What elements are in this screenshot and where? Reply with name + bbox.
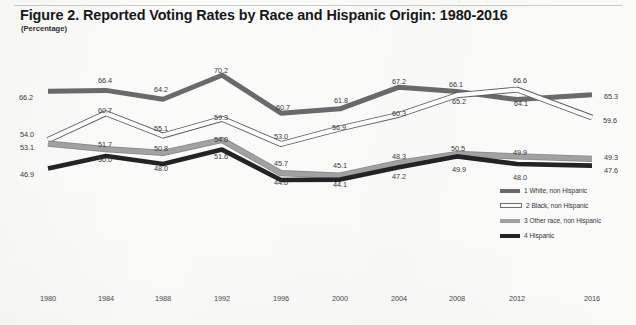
data-point-label: 53.1 bbox=[20, 143, 34, 152]
data-point-label: 66.4 bbox=[98, 76, 112, 85]
x-axis-tick-1992: 1992 bbox=[214, 294, 230, 303]
other-race-line-swatch bbox=[500, 219, 520, 223]
data-point-label: 60.7 bbox=[98, 106, 112, 115]
x-axis-tick-1988: 1988 bbox=[155, 294, 171, 303]
data-point-label: 49.3 bbox=[604, 153, 618, 162]
data-point-label: 48.0 bbox=[513, 173, 527, 182]
data-point-label: 45.1 bbox=[333, 161, 347, 170]
data-point-label: 64.1 bbox=[514, 99, 528, 108]
data-point-label: 48.0 bbox=[154, 164, 168, 173]
x-axis-tick-2012: 2012 bbox=[509, 294, 525, 303]
data-point-label: 54.0 bbox=[214, 135, 228, 144]
data-point-label: 66.1 bbox=[449, 80, 463, 89]
legend-item-3[interactable]: 3 Other race, non Hispanic bbox=[500, 213, 630, 228]
data-point-label: 44.1 bbox=[333, 180, 347, 189]
data-point-label: 49.9 bbox=[452, 165, 466, 174]
x-axis-tick-2004: 2004 bbox=[391, 294, 407, 303]
legend-item-label: 1 White, non Hispanic bbox=[524, 187, 587, 194]
data-point-label: 59.6 bbox=[603, 116, 617, 125]
data-point-label: 49.9 bbox=[513, 148, 527, 157]
data-point-label: 65.2 bbox=[452, 97, 466, 106]
legend-item-label: 2 Black, non Hispanic bbox=[526, 202, 588, 209]
data-point-label: 54.0 bbox=[20, 130, 34, 139]
data-point-label: 48.3 bbox=[392, 152, 406, 161]
data-point-label: 44.0 bbox=[274, 178, 288, 187]
data-point-label: 70.2 bbox=[214, 66, 228, 75]
data-point-label: 46.9 bbox=[20, 170, 34, 179]
legend-item-label: 3 Other race, non Hispanic bbox=[524, 217, 601, 224]
x-axis-tick-2016: 2016 bbox=[584, 294, 600, 303]
black-line-swatch bbox=[500, 203, 522, 208]
data-point-label: 59.3 bbox=[214, 113, 228, 122]
data-point-label: 50.5 bbox=[451, 144, 465, 153]
chart-legend: 1 White, non Hispanic2 Black, non Hispan… bbox=[500, 183, 630, 243]
legend-item-2[interactable]: 2 Black, non Hispanic bbox=[500, 198, 630, 213]
line-chart-canvas bbox=[0, 0, 636, 325]
data-point-label: 64.2 bbox=[154, 85, 168, 94]
white-line-swatch bbox=[500, 189, 520, 193]
series-line-1 bbox=[48, 75, 592, 113]
figure-container: Figure 2. Reported Voting Rates by Race … bbox=[0, 0, 636, 325]
data-point-label: 66.6 bbox=[513, 76, 527, 85]
data-point-label: 47.2 bbox=[392, 172, 406, 181]
data-point-label: 50.8 bbox=[154, 144, 168, 153]
legend-item-4[interactable]: 4 Hispanic bbox=[500, 228, 630, 243]
data-point-label: 67.2 bbox=[392, 77, 406, 86]
data-point-label: 55.1 bbox=[154, 124, 168, 133]
data-point-label: 50.0 bbox=[98, 155, 112, 164]
data-point-label: 51.7 bbox=[98, 140, 112, 149]
legend-item-label: 4 Hispanic bbox=[524, 232, 554, 239]
legend-item-1[interactable]: 1 White, non Hispanic bbox=[500, 183, 630, 198]
x-axis-tick-1984: 1984 bbox=[98, 294, 114, 303]
data-point-label: 61.8 bbox=[334, 96, 348, 105]
x-axis-tick-1980: 1980 bbox=[40, 294, 56, 303]
data-point-label: 65.3 bbox=[604, 92, 618, 101]
data-point-label: 60.7 bbox=[276, 103, 290, 112]
data-point-label: 60.3 bbox=[392, 109, 406, 118]
hispanic-line-swatch bbox=[500, 234, 520, 238]
x-axis-tick-1996: 1996 bbox=[273, 294, 289, 303]
data-point-label: 66.2 bbox=[19, 93, 33, 102]
data-point-label: 56.9 bbox=[332, 123, 346, 132]
data-point-label: 51.6 bbox=[214, 152, 228, 161]
data-point-label: 45.7 bbox=[274, 159, 288, 168]
x-axis-tick-2000: 2000 bbox=[332, 294, 348, 303]
x-axis-tick-2008: 2008 bbox=[449, 294, 465, 303]
data-point-label: 47.6 bbox=[604, 166, 618, 175]
data-point-label: 53.0 bbox=[274, 132, 288, 141]
